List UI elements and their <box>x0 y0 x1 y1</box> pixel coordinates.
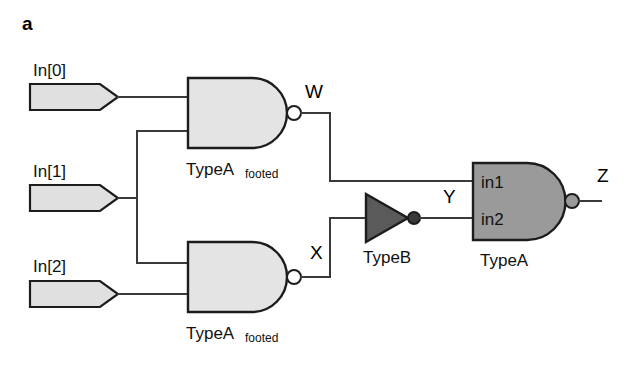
net-label-x: X <box>310 242 323 263</box>
gate-inverter-typeb[interactable] <box>366 194 408 242</box>
wire-in1-to-nand-top <box>137 131 188 198</box>
gate-sublabel-nand-bottom: footed <box>245 331 278 345</box>
inversion-bubble-nand-top <box>287 106 301 120</box>
net-label-y: Y <box>443 186 456 207</box>
wire-in1-to-nand-bottom <box>137 198 188 263</box>
circuit-figure: a In[0] In[1] In[2] TypeA footed W TypeA… <box>0 0 632 367</box>
gate-input-label-in1: in1 <box>481 173 504 192</box>
circuit-diagram-svg: a In[0] In[1] In[2] TypeA footed W TypeA… <box>0 0 632 367</box>
input-label-in2: In[2] <box>33 257 66 276</box>
inversion-bubble-nand-output <box>565 194 579 208</box>
input-pin-in0[interactable] <box>30 84 118 110</box>
panel-label-a: a <box>22 13 33 34</box>
gate-nand-bottom[interactable] <box>188 242 287 312</box>
wire-w-to-in1 <box>301 113 473 181</box>
gate-label-nand-output: TypeA <box>480 251 529 270</box>
input-label-in0: In[0] <box>33 61 66 80</box>
net-label-w: W <box>305 81 323 102</box>
gate-label-nand-bottom: TypeA <box>186 324 235 343</box>
input-pin-in1[interactable] <box>30 185 118 211</box>
gate-nand-top[interactable] <box>188 78 287 148</box>
net-label-z: Z <box>597 165 609 186</box>
input-pin-in2[interactable] <box>30 281 118 307</box>
inversion-bubble-nand-bottom <box>287 270 301 284</box>
input-label-in1: In[1] <box>33 162 66 181</box>
inversion-bubble-inverter <box>408 212 420 224</box>
gate-sublabel-nand-top: footed <box>245 167 278 181</box>
gate-label-inverter: TypeB <box>363 248 411 267</box>
gate-label-nand-top: TypeA <box>186 160 235 179</box>
gate-input-label-in2: in2 <box>481 210 504 229</box>
